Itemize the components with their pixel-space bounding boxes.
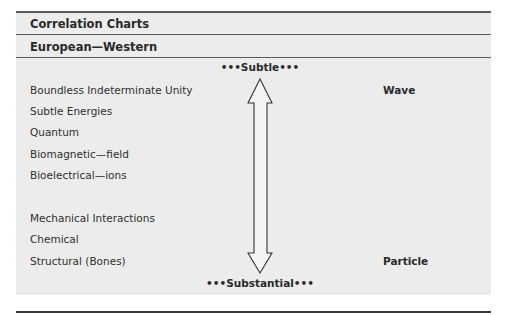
chart-title: Correlation Charts xyxy=(30,17,149,31)
top-rule xyxy=(16,11,491,13)
bottom-rule xyxy=(16,311,491,313)
substantial-pole-label: •••Substantial••• xyxy=(160,277,360,289)
chart-subtitle: European—Western xyxy=(30,40,157,54)
level-item: Biomagnetic—field xyxy=(30,148,129,160)
level-item: Subtle Energies xyxy=(30,105,112,117)
level-item: Structural (Bones) xyxy=(30,255,126,267)
level-item: Quantum xyxy=(30,126,79,138)
level-item: Bioelectrical—ions xyxy=(30,169,127,181)
double-arrow-shape xyxy=(248,79,272,273)
double-arrow-icon xyxy=(240,72,280,277)
level-item: Boundless Indeterminate Unity xyxy=(30,84,193,96)
title-divider xyxy=(16,34,491,35)
wave-label: Wave xyxy=(383,84,415,96)
particle-label: Particle xyxy=(383,255,428,267)
subtitle-divider xyxy=(16,57,491,58)
level-item: Mechanical Interactions xyxy=(30,212,155,224)
level-item: Chemical xyxy=(30,233,79,245)
